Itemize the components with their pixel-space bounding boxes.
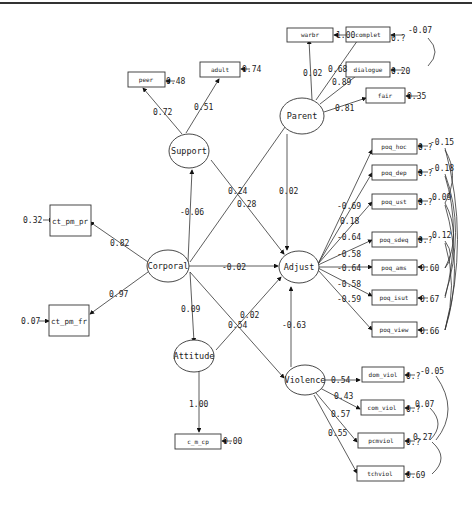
loading-support-adult: 0.51 [194, 103, 213, 112]
residual-adult: 0.74 [242, 65, 261, 74]
latent-attitude: Attitude [174, 351, 215, 361]
residual-poq-ams: 0.60 [420, 264, 439, 273]
corr-dom-com: -0.05 [420, 367, 444, 376]
box-com-viol: com_viol [368, 404, 397, 412]
loading-violence-1: 0.54 [331, 376, 350, 385]
loading-parent-warm: 0.02 [303, 69, 322, 78]
residual-warm: 1.00 [336, 31, 355, 40]
residual-fair: 0.35 [407, 92, 426, 101]
box-pcmviol: pcmviol [368, 437, 394, 445]
residual-poq-ust: 0.? [418, 198, 433, 207]
loading-adjust-6: -0.58 [337, 280, 361, 289]
path-corporal-adjust: -0.02 [222, 263, 246, 272]
latent-corporal: Corporal [148, 261, 189, 271]
corr-complet-dialogue: -0.07 [408, 26, 432, 35]
loading-parent-fair: 0.81 [335, 104, 354, 113]
loading-adjust-5: -0.64 [337, 264, 361, 273]
loading-parent-dialogue: 0.89 [332, 78, 351, 87]
box-poq-ust: poq_ust [381, 198, 407, 206]
residual-dialogue: 0.20 [391, 67, 410, 76]
box-c-m-cp: c_m_cp [187, 438, 209, 446]
loading-adjust-2: 0.18 [340, 217, 359, 226]
loading-attitude-cmcp: 1.00 [189, 400, 208, 409]
box-poq-sdeq: poq_sdeq [380, 236, 409, 244]
loading-adjust-3: -0.64 [337, 233, 361, 242]
loading-violence-3: 0.57 [331, 410, 350, 419]
latent-support: Support [171, 146, 207, 156]
residual-dom-viol: 0.? [406, 372, 421, 381]
residual-poq-isut: 0.67 [420, 295, 439, 304]
box-fair: fair [378, 92, 393, 99]
box-peer: peer [139, 76, 154, 84]
residual-c-m-cp: 0.00 [223, 437, 242, 446]
path-corporal-attitude: 0.09 [181, 305, 200, 314]
corr-com-pcm: 0.07 [415, 400, 434, 409]
residual-tchviol: 0.69 [406, 471, 425, 480]
path-violence-adjust: -0.63 [282, 321, 306, 330]
path-corporal-violence: 0.54 [228, 321, 247, 330]
loading-violence-4: 0.55 [328, 429, 347, 438]
box-adult: adult [211, 66, 229, 73]
residual-complet: 0.? [391, 34, 406, 43]
residual-peer: 0.48 [166, 77, 185, 86]
box-dialogue: dialogue [354, 66, 383, 74]
latent-adjust: Adjust [284, 262, 315, 272]
box-dom-viol: dom_viol [369, 371, 398, 379]
box-poq-hoc: poq_hoc [381, 143, 407, 151]
box-poq-dep: poq_dep [381, 169, 407, 177]
path-diagram: Parent Support Corporal Adjust Attitude … [0, 0, 472, 514]
box-ct-pm-fr: ct_pm_fr [51, 317, 88, 326]
loading-violence-2: 0.43 [334, 392, 353, 401]
residual-ct-pm-pr: 0.32 [23, 216, 42, 225]
path-corporal-support: -0.06 [180, 208, 204, 217]
box-ct-pm-pr: ct_pm_pr [52, 217, 89, 226]
residual-poq-sdeq: 0.? [418, 236, 433, 245]
corr-pcm-tch: 0.27 [413, 433, 432, 442]
residual-poq-view: 0.66 [420, 327, 439, 336]
box-poq-ams: poq_ams [381, 264, 407, 272]
path-attitude-adjust: 0.02 [240, 311, 259, 320]
latent-parent: Parent [287, 111, 318, 121]
path-corporal-parent: 0.24 [228, 187, 247, 196]
latent-violence: Violence [285, 375, 326, 385]
corr-poq-sdeq: 0.12 [432, 231, 451, 240]
loading-support-peer: 0.72 [153, 108, 172, 117]
loading-adjust-1: -0.69 [337, 202, 361, 211]
box-warm: warbr [301, 31, 319, 38]
residual-ct-pm-fr: 0.07 [21, 317, 40, 326]
box-tchviol: tchviol [367, 470, 393, 477]
loading-adjust-7: -0.59 [337, 295, 361, 304]
box-poq-view: poq_view [380, 326, 409, 334]
corr-poq-hoc: -0.15 [430, 138, 454, 147]
loading-parent-complet: 0.68 [328, 65, 347, 74]
loading-adjust-4: -0.58 [337, 250, 361, 259]
corr-poq-ust: 0.09 [432, 193, 451, 202]
path-parent-adjust: 0.02 [279, 187, 298, 196]
box-complet: complet [355, 31, 381, 39]
loading-corporal-fr: 0.97 [109, 290, 128, 299]
box-poq-isut: poq_isut [380, 294, 409, 302]
corr-poq-dep: -0.18 [430, 164, 454, 173]
loading-corporal-pr: 0.82 [110, 239, 129, 248]
path-support-adjust: 0.28 [237, 200, 256, 209]
